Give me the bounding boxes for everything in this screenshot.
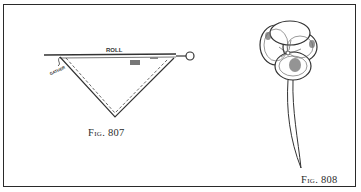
fig-808-caption: Fig. 808 — [301, 174, 338, 185]
fig-808-illustration — [0, 0, 361, 192]
